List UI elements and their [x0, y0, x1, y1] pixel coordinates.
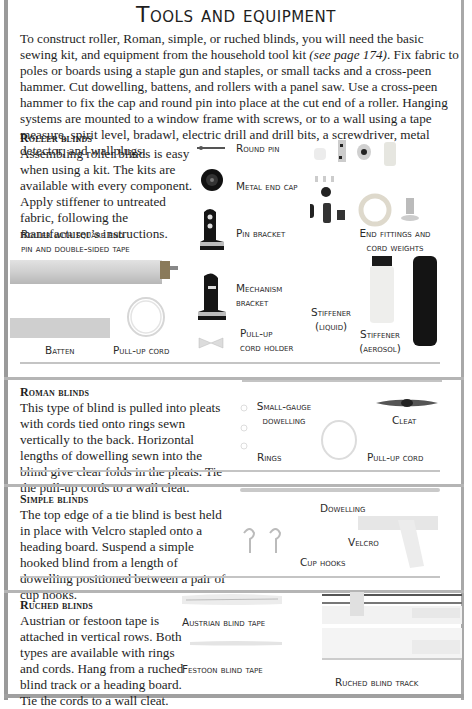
label-rings: Rings: [257, 450, 281, 464]
label-dowelling: Dowelling: [320, 501, 365, 515]
batten-image: [10, 318, 110, 338]
austrian-tape-image: [182, 592, 282, 608]
roman-pull-up-cord-image: [318, 418, 360, 462]
section-heading: Roller blinds: [20, 131, 200, 146]
image-divider: [242, 380, 442, 382]
frame-divider: [4, 484, 464, 487]
label-austrian-tape: Austrian blind tape: [182, 615, 265, 629]
roller-blinds-section: Roller blinds Assembling roller blinds i…: [20, 131, 200, 242]
round-pin-image: [197, 144, 227, 152]
label-pin-bracket: Pin bracket: [236, 226, 285, 240]
ruched-track-image: [322, 592, 462, 662]
page-frame-left: [4, 0, 8, 700]
section-divider: [20, 362, 440, 364]
stiffener-liquid-image: [366, 256, 398, 324]
metal-end-cap-image: [200, 168, 224, 192]
page-reference: (see page 174): [309, 47, 387, 62]
label-stiffener-aerosol: Stiffener(aerosol): [345, 327, 415, 355]
section-text: This type of blind is pulled into pleats…: [20, 400, 230, 496]
end-fittings-image: [310, 138, 430, 233]
section-heading: Roman blinds: [20, 385, 230, 400]
roller-image: [10, 256, 180, 286]
mechanism-bracket-image: [196, 272, 228, 324]
simple-blinds-section: Simple blinds The top edge of a tie blin…: [20, 492, 230, 603]
label-batten: Batten: [45, 343, 75, 357]
section-divider: [20, 576, 440, 578]
label-festoon-tape: Festoon blind tape: [182, 662, 263, 676]
label-metal-end-cap: Metal end cap: [236, 179, 298, 193]
section-text: The top edge of a tie blind is best held…: [20, 507, 230, 603]
label-pull-up-cord: Pull-up cord: [113, 343, 169, 357]
pull-up-cord-image: [124, 294, 168, 340]
page-title: Tools and equipment: [0, 2, 472, 27]
section-heading: Ruched blinds: [20, 598, 190, 613]
cord-holder-image: [198, 336, 224, 350]
ruched-blinds-section: Ruched blinds Austrian or festoon tape i…: [20, 598, 190, 709]
label-velcro: Velcro: [348, 535, 379, 549]
label-small-gauge-dowelling: Small-gaugedowelling: [244, 399, 324, 427]
cup-hooks-image: [240, 525, 290, 555]
pin-bracket-image: [198, 208, 228, 252]
rings-image: [240, 400, 248, 460]
label-mechanism-bracket: Mechanismbracket: [236, 281, 282, 309]
label-ruched-track: Ruched blind track: [335, 675, 418, 689]
label-cup-hooks: Cup hooks: [300, 555, 345, 569]
label-cleat: Cleat: [392, 413, 416, 427]
label-roller: Roller with square endpin and double-sid…: [21, 227, 130, 255]
stiffener-aerosol-image: [413, 256, 437, 346]
festoon-tape-image: [190, 639, 282, 647]
section-divider: [20, 470, 440, 472]
roman-blinds-section: Roman blinds This type of blind is pulle…: [20, 385, 230, 496]
label-roman-pull-up-cord: Pull-up cord: [367, 450, 423, 464]
cleat-image: [374, 397, 440, 409]
label-end-fittings: End fittings andcord weights: [330, 226, 460, 254]
label-pull-up-cord-holder: Pull-upcord holder: [240, 326, 293, 354]
section-text: Austrian or festoon tape is attached in …: [20, 613, 190, 709]
label-round-pin: Round pin: [236, 141, 279, 155]
section-heading: Simple blinds: [20, 492, 230, 507]
dowelling-image: [240, 488, 440, 492]
